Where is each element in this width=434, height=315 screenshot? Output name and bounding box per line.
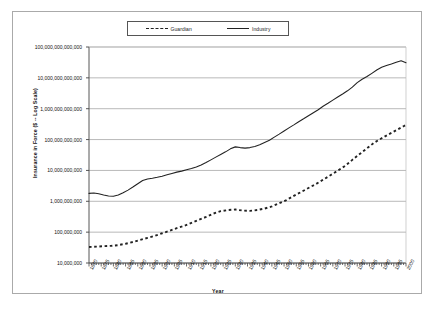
legend-entry-industry: Industry [227,26,271,32]
series-line-guardian [89,125,406,247]
y-tick-label: 10,000,000 [57,260,82,266]
chart-canvas [13,12,423,295]
plot-area: 100,000,000,000,00010,000,000,000,0001,0… [13,12,421,293]
y-tick-label: 1,000,000,000 [50,198,82,204]
legend-swatch-dashed-icon [146,26,168,31]
y-tick-label: 100,000,000,000,000 [35,44,82,50]
y-tick-label: 10,000,000,000 [47,167,82,173]
chart-figure: Guardian Industry 100,000,000,000,00010,… [12,11,422,294]
y-tick-label: 1,000,000,000,000 [40,106,82,112]
x-axis-title: Year [13,288,423,294]
legend-label-industry: Industry [252,26,271,32]
series-line-industry [89,61,406,197]
legend-swatch-solid-icon [227,26,249,31]
legend-label-guardian: Guardian [171,26,192,32]
chart-legend: Guardian Industry [127,21,289,36]
legend-entry-guardian: Guardian [146,26,192,32]
y-tick-label: 10,000,000,000,000 [38,75,83,81]
y-tick-label: 100,000,000 [54,229,82,235]
y-axis-title: Insurance in Force ($ -- Log Scale) [32,73,38,193]
y-tick-label: 100,000,000,000 [44,137,82,143]
